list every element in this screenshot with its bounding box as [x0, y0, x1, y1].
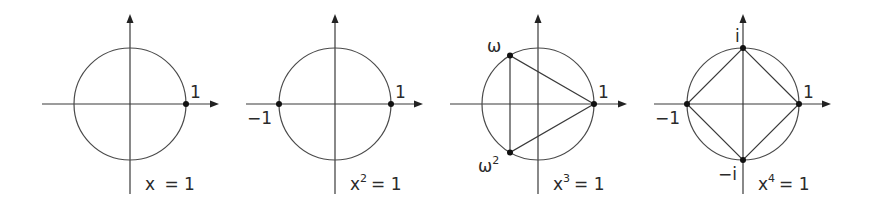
real-axis-arrow-icon [414, 101, 423, 108]
root-point-1 [388, 101, 394, 107]
equation-label: x4= 1 [758, 172, 810, 194]
root-label-omega-squared: ω2 [478, 154, 499, 176]
imaginary-axis-arrow-icon [535, 14, 542, 23]
imaginary-axis-arrow-icon [740, 14, 747, 23]
equation-label: x3= 1 [553, 172, 605, 194]
equation-label: x = 1 [145, 174, 195, 194]
root-label-omega: ω [487, 36, 501, 56]
root-point-1 [183, 101, 189, 107]
root-point-neg-1 [276, 101, 282, 107]
panel-x-equals-1: 1 x = 1 [42, 14, 219, 194]
root-label-i: i [735, 26, 740, 46]
root-point-1 [591, 101, 597, 107]
root-label-1: 1 [803, 82, 814, 102]
root-label-1: 1 [598, 82, 609, 102]
panel-x-squared-equals-1: 1 −1 x2= 1 [246, 14, 423, 194]
imaginary-axis-arrow-icon [127, 14, 134, 23]
panel-x-fourth-equals-1: 1 i −1 −i x4= 1 [654, 14, 831, 194]
root-label-1: 1 [190, 82, 201, 102]
root-point-omega [507, 53, 513, 59]
roots-of-unity-diagram: 1 x = 1 1 −1 x2= 1 1 ω ω2 [0, 0, 869, 212]
root-point-omega-squared [507, 150, 513, 156]
real-axis-arrow-icon [822, 101, 831, 108]
imaginary-axis-arrow-icon [332, 14, 339, 23]
real-axis-arrow-icon [210, 101, 219, 108]
root-point-i [740, 45, 746, 51]
root-label-neg-1: −1 [655, 108, 680, 128]
real-axis-arrow-icon [618, 101, 627, 108]
root-label-neg-i: −i [718, 164, 737, 184]
root-point-neg-i [740, 157, 746, 163]
root-label-1: 1 [395, 82, 406, 102]
root-point-neg-1 [684, 101, 690, 107]
equation-label: x2= 1 [350, 172, 402, 194]
panel-x-cubed-equals-1: 1 ω ω2 x3= 1 [450, 14, 627, 194]
root-label-neg-1: −1 [247, 108, 272, 128]
root-point-1 [796, 101, 802, 107]
